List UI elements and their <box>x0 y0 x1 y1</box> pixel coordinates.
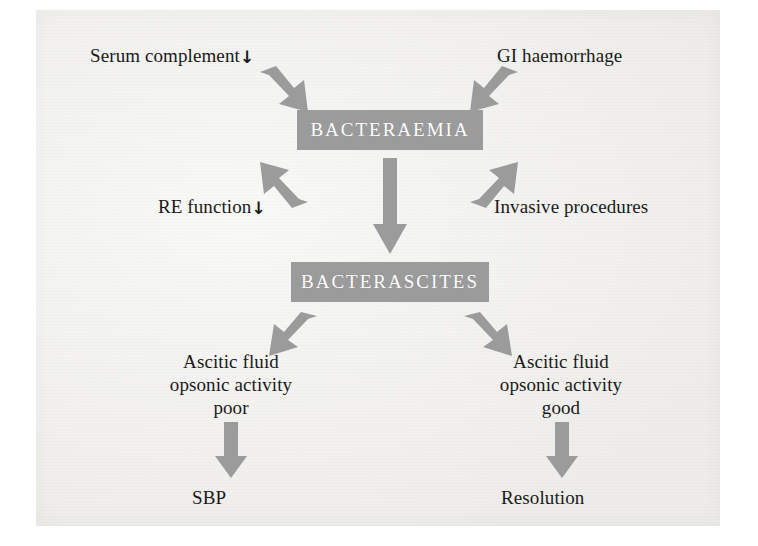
arrow-gi-haemorrhage-to-bacteraemia <box>468 66 520 114</box>
node-serum-complement: Serum complement↓ <box>90 45 254 67</box>
node-bacteraemia-label: BACTERAEMIA <box>310 119 469 141</box>
node-re-function-label: RE function <box>158 196 251 217</box>
node-ascitic-poor: Ascitic fluid opsonic activity poor <box>135 350 327 420</box>
node-ascitic-poor-line3: poor <box>213 397 248 418</box>
node-sbp-label: SBP <box>192 487 226 508</box>
node-ascitic-poor-line1: Ascitic fluid <box>183 351 279 372</box>
arrow-invasive-procedures-to-bacteraemia <box>468 160 520 208</box>
node-resolution: Resolution <box>501 487 584 509</box>
node-gi-haemorrhage: GI haemorrhage <box>497 45 622 67</box>
arrow-serum-complement-to-bacteraemia <box>258 66 310 114</box>
diagram-page: Serum complement↓ GI haemorrhage BACTERA… <box>0 0 758 546</box>
node-re-function: RE function↓ <box>158 196 266 218</box>
node-ascitic-good-line3: good <box>542 397 580 418</box>
node-resolution-label: Resolution <box>501 487 584 508</box>
node-bacterascites: BACTERASCITES <box>291 262 489 302</box>
node-ascitic-poor-line2: opsonic activity <box>170 374 292 395</box>
node-bacterascites-label: BACTERASCITES <box>301 271 479 293</box>
node-bacteraemia: BACTERAEMIA <box>297 110 483 150</box>
node-gi-haemorrhage-label: GI haemorrhage <box>497 45 622 66</box>
arrow-bacteraemia-to-bacterascites <box>372 158 408 256</box>
down-arrow-icon: ↓ <box>240 49 254 66</box>
node-ascitic-good-line1: Ascitic fluid <box>513 351 609 372</box>
arrow-ascitic-good-to-resolution <box>545 422 579 480</box>
arrow-ascitic-poor-to-sbp <box>214 422 248 480</box>
node-sbp: SBP <box>192 487 226 509</box>
node-ascitic-good-line2: opsonic activity <box>500 374 622 395</box>
node-ascitic-good: Ascitic fluid opsonic activity good <box>465 350 657 420</box>
arrow-re-function-to-bacteraemia <box>258 160 310 208</box>
node-serum-complement-label: Serum complement <box>90 45 240 66</box>
